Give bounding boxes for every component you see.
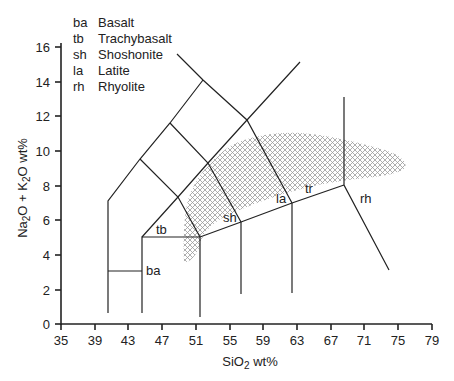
region-label-ba: ba	[146, 263, 161, 278]
chart-canvas: 16 14 12 10 8 6 4 2 0 35 39 43 47 51 55 …	[0, 0, 454, 381]
x-tick-label: 39	[88, 333, 102, 348]
shaded-field	[184, 133, 406, 262]
x-tick-label: 71	[357, 333, 371, 348]
x-tick-label: 75	[391, 333, 405, 348]
y-tick-label: 0	[43, 317, 50, 332]
legend-name: Basalt	[98, 15, 135, 30]
x-axis	[61, 324, 432, 330]
x-axis-label: SiO2 wt%	[222, 354, 278, 371]
region-label-sh: sh	[223, 210, 237, 225]
y-tick-label: 6	[43, 213, 50, 228]
x-tick-label: 67	[324, 333, 338, 348]
x-tick-label: 47	[155, 333, 169, 348]
y-tick-label: 8	[43, 179, 50, 194]
x-tick-labels: 35 39 43 47 51 55 59 63 67 71 75 79	[54, 333, 439, 348]
region-label-tr: tr	[305, 181, 314, 196]
legend-name: Trachybasalt	[98, 31, 172, 46]
x-tick-label: 79	[425, 333, 439, 348]
legend-abbr: la	[73, 63, 84, 78]
region-label-rh: rh	[360, 191, 372, 206]
y-tick-labels: 16 14 12 10 8 6 4 2 0	[36, 40, 50, 332]
legend-name: Latite	[98, 63, 130, 78]
legend-abbr: sh	[73, 47, 87, 62]
x-tick-label: 63	[290, 333, 304, 348]
legend-name: Rhyolite	[98, 79, 145, 94]
y-axis	[55, 43, 61, 325]
y-tick-label: 12	[36, 109, 50, 124]
y-tick-label: 2	[43, 283, 50, 298]
legend-abbr: ba	[73, 15, 88, 30]
region-label-tb: tb	[156, 222, 167, 237]
legend-abbr: rh	[73, 79, 85, 94]
x-tick-label: 43	[121, 333, 135, 348]
y-tick-label: 10	[36, 144, 50, 159]
legend-name: Shoshonite	[98, 47, 163, 62]
tas-diagram: 16 14 12 10 8 6 4 2 0 35 39 43 47 51 55 …	[0, 0, 454, 381]
boundary-rhyolite	[344, 97, 389, 270]
region-label-la: la	[276, 191, 287, 206]
y-tick-label: 4	[43, 248, 50, 263]
y-tick-label: 14	[36, 75, 50, 90]
x-tick-label: 51	[189, 333, 203, 348]
x-tick-label: 59	[256, 333, 270, 348]
x-tick-label: 35	[54, 333, 68, 348]
legend-abbr: tb	[73, 31, 84, 46]
y-tick-label: 16	[36, 40, 50, 55]
boundary-outer-left	[108, 80, 203, 313]
legend: ba Basalt tb Trachybasalt sh Shoshonite …	[73, 15, 172, 94]
y-axis-label: Na2O + K2O wt%	[15, 138, 32, 238]
x-tick-label: 55	[223, 333, 237, 348]
